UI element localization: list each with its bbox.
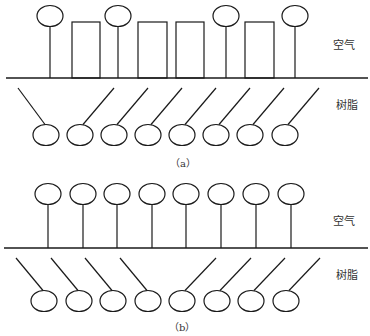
molecule-head-circle bbox=[105, 6, 131, 27]
submerged-molecule-tail bbox=[120, 258, 147, 291]
submerged-molecule-circle bbox=[273, 291, 299, 312]
molecule-head-circle bbox=[213, 6, 239, 27]
submerged-molecule-tail bbox=[219, 88, 250, 125]
molecule-head-circle bbox=[139, 184, 165, 205]
submerged-molecule-circle bbox=[101, 125, 127, 146]
submerged-molecule-circle bbox=[67, 125, 93, 146]
submerged-molecule-tail bbox=[51, 258, 78, 291]
molecule-head-circle bbox=[70, 184, 96, 205]
molecule-head-circle bbox=[278, 184, 304, 205]
label-air-b: 空气 bbox=[333, 212, 355, 228]
submerged-molecule-circle bbox=[238, 291, 264, 312]
submerged-molecule-circle bbox=[135, 125, 161, 146]
label-resin-b: 树脂 bbox=[336, 266, 358, 282]
label-air-a: 空气 bbox=[333, 36, 355, 52]
label-resin-a: 树脂 bbox=[336, 96, 358, 112]
molecule-head-circle bbox=[208, 184, 234, 205]
molecule-head-circle bbox=[282, 6, 308, 27]
submerged-molecule-circle bbox=[33, 125, 59, 146]
submerged-molecule-circle bbox=[169, 291, 195, 312]
submerged-molecule-tail bbox=[151, 88, 182, 125]
submerged-molecule-circle bbox=[237, 125, 263, 146]
molecule-head-circle bbox=[104, 184, 130, 205]
submerged-molecule-tail bbox=[185, 88, 216, 125]
submerged-molecule-tail bbox=[254, 258, 285, 291]
submerged-molecule-tail bbox=[220, 258, 251, 291]
submerged-molecule-tail bbox=[288, 88, 319, 125]
molecule-block-rect bbox=[176, 22, 204, 78]
molecule-head-circle bbox=[35, 184, 61, 205]
submerged-molecule-circle bbox=[204, 291, 230, 312]
molecule-head-circle bbox=[173, 184, 199, 205]
caption-a: （a） bbox=[170, 155, 196, 170]
molecule-block-rect bbox=[245, 22, 274, 78]
submerged-molecule-circle bbox=[135, 291, 161, 312]
submerged-molecule-tail bbox=[83, 88, 114, 125]
submerged-molecule-tail bbox=[85, 258, 112, 291]
submerged-molecule-circle bbox=[31, 291, 57, 312]
submerged-molecule-circle bbox=[169, 125, 195, 146]
submerged-molecule-tail bbox=[289, 258, 320, 291]
submerged-molecule-tail bbox=[16, 258, 43, 291]
molecule-head-circle bbox=[37, 6, 63, 27]
submerged-molecule-tail bbox=[185, 258, 216, 291]
submerged-molecule-circle bbox=[66, 291, 92, 312]
submerged-molecule-circle bbox=[272, 125, 298, 146]
submerged-molecule-tail bbox=[117, 88, 148, 125]
submerged-molecule-circle bbox=[100, 291, 126, 312]
molecule-block-rect bbox=[138, 22, 167, 78]
molecule-block-rect bbox=[72, 22, 100, 78]
diagram-canvas: 空气 树脂 （a） 空气 树脂 （b） bbox=[0, 0, 370, 336]
molecule-head-circle bbox=[243, 184, 269, 205]
submerged-molecule-tail bbox=[253, 88, 284, 125]
submerged-molecule-circle bbox=[203, 125, 229, 146]
submerged-molecule-tail bbox=[18, 88, 45, 125]
caption-b: （b） bbox=[169, 319, 195, 334]
